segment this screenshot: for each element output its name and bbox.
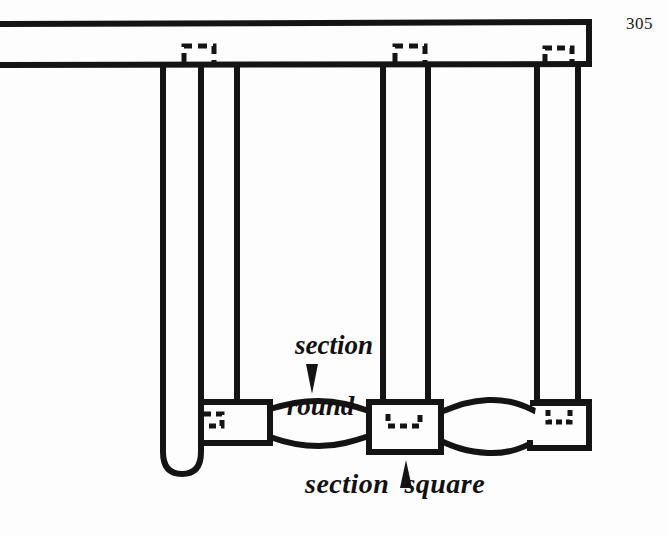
center-post [383, 64, 428, 402]
left-leg [163, 64, 201, 474]
left-block [201, 402, 270, 443]
annotation-section-square: section square [305, 468, 485, 499]
annotation-section-round: section round [268, 300, 373, 481]
annotation-section-round-line2: round [268, 391, 373, 421]
right-spindle [441, 400, 537, 453]
right-block [530, 402, 589, 448]
right-post [537, 64, 578, 402]
tenon-top-right [545, 48, 572, 62]
top-rail [0, 22, 592, 65]
page-number: 305 [626, 14, 653, 34]
annotation-section-round-line1: section [295, 330, 373, 360]
tenon-top-center [395, 46, 425, 62]
page-canvas: 305 section round section square [0, 0, 669, 536]
tenon-top-left [184, 46, 214, 62]
